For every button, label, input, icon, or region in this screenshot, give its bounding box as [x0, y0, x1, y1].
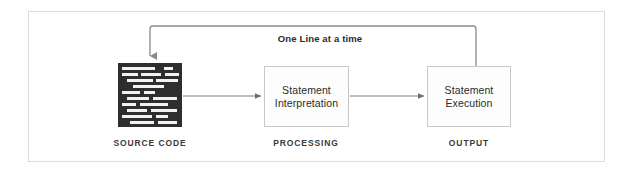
- code-line: [130, 121, 154, 124]
- feedback-loop-label: One Line at a time: [210, 33, 430, 44]
- code-line: [127, 109, 147, 112]
- diagram-canvas: Statement Interpretation Statement Execu…: [0, 0, 634, 173]
- code-line: [156, 79, 178, 82]
- node-statement-interpretation[interactable]: Statement Interpretation: [264, 66, 349, 127]
- node-label-line-1: Statement: [445, 84, 494, 97]
- code-line: [156, 115, 168, 118]
- code-line: [140, 103, 168, 106]
- code-line: [165, 73, 179, 76]
- code-line: [153, 97, 177, 100]
- code-line: [158, 121, 177, 124]
- code-line: [141, 73, 161, 76]
- code-line: [144, 91, 155, 94]
- code-line: [122, 67, 155, 70]
- node-statement-execution[interactable]: Statement Execution: [427, 66, 511, 127]
- code-line: [122, 103, 136, 106]
- code-line: [151, 109, 177, 112]
- node-label-line-1: Statement: [282, 84, 331, 97]
- code-line: [164, 67, 173, 70]
- caption-output: OUTPUT: [419, 138, 519, 148]
- node-label-line-2: Execution: [445, 97, 492, 110]
- code-line: [127, 79, 153, 82]
- code-line: [122, 73, 138, 76]
- source-code-block: [118, 63, 182, 127]
- caption-source-code: SOURCE CODE: [100, 138, 200, 148]
- code-line: [133, 85, 164, 88]
- code-line: [122, 115, 152, 118]
- caption-processing: PROCESSING: [256, 138, 356, 148]
- code-line: [122, 91, 140, 94]
- node-label-line-2: Interpretation: [275, 97, 338, 110]
- code-line: [127, 97, 149, 100]
